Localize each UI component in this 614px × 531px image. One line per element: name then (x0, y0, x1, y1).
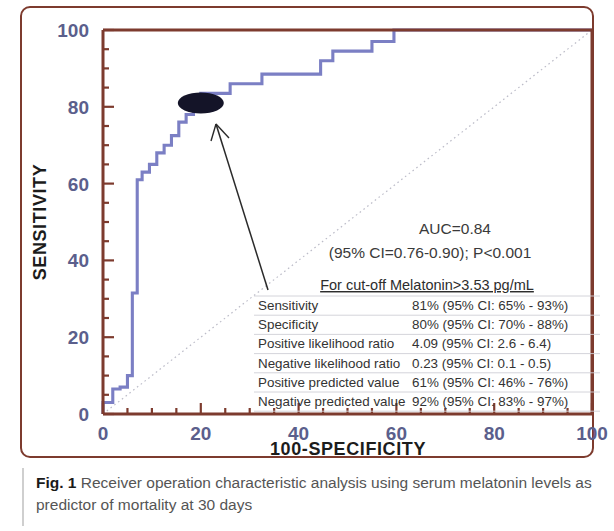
figure-caption: Fig. 1 Receiver operation characteristic… (36, 472, 596, 516)
table-row: Negative likelihood ratio0.23 (95% CI: 0… (258, 356, 551, 371)
caption-rule (22, 468, 24, 526)
table-row-value: 81% (95% CI: 65% - 93%) (412, 298, 568, 313)
y-axis-tick-labels: 020406080100 (57, 20, 89, 425)
y-tick-100: 100 (57, 20, 89, 41)
cutoff-table-title: For cut-off Melatonin>3.53 pg/mL (320, 277, 534, 293)
table-row-label: Negative predicted value (258, 394, 405, 409)
table-row: Sensitivity81% (95% CI: 65% - 93%) (258, 298, 568, 313)
table-row-label: Positive likelihood ratio (258, 336, 394, 351)
table-row: Positive predicted value61% (95% CI: 46%… (258, 375, 568, 390)
table-row-value: 92% (95% CI: 83% - 97%) (412, 394, 568, 409)
y-tick-0: 0 (78, 404, 89, 425)
x-tick-100: 100 (576, 423, 608, 444)
auc-text: AUC=0.84 (419, 220, 491, 237)
y-tick-20: 20 (68, 327, 89, 348)
x-tick-0: 0 (98, 423, 109, 444)
y-tick-60: 60 (68, 174, 89, 195)
table-row: Positive likelihood ratio4.09 (95% CI: 2… (258, 336, 551, 351)
caption-label: Fig. 1 (36, 474, 76, 491)
y-tick-40: 40 (68, 250, 89, 271)
table-row-label: Positive predicted value (258, 375, 399, 390)
table-row-value: 4.09 (95% CI: 2.6 - 6.4) (412, 336, 551, 351)
table-row: Specificity80% (95% CI: 70% - 88%) (258, 317, 568, 332)
y-axis-title: SENSITIVITY (30, 164, 50, 281)
caption-body: Receiver operation characteristic analys… (36, 474, 592, 513)
roc-plot: 020406080100 020406080100 100-SPECIFICIT… (0, 0, 614, 531)
x-tick-80: 80 (484, 423, 505, 444)
figure-container: 020406080100 020406080100 100-SPECIFICIT… (0, 0, 614, 531)
table-row-label: Sensitivity (258, 298, 319, 313)
table-row: Negative predicted value92% (95% CI: 83%… (258, 394, 568, 409)
table-row-value: 0.23 (95% CI: 0.1 - 0.5) (412, 356, 551, 371)
x-tick-20: 20 (190, 423, 211, 444)
cutoff-marker (178, 92, 224, 113)
y-tick-80: 80 (68, 97, 89, 118)
table-row-label: Negative likelihood ratio (258, 356, 400, 371)
x-axis-title: 100-SPECIFICITY (270, 439, 426, 459)
table-row-value: 61% (95% CI: 46% - 76%) (412, 375, 568, 390)
annotation-arrow (211, 124, 268, 290)
table-row-value: 80% (95% CI: 70% - 88%) (412, 317, 568, 332)
table-row-label: Specificity (258, 317, 319, 332)
auc-ci-text: (95% CI=0.76-0.90); P<0.001 (329, 244, 532, 261)
